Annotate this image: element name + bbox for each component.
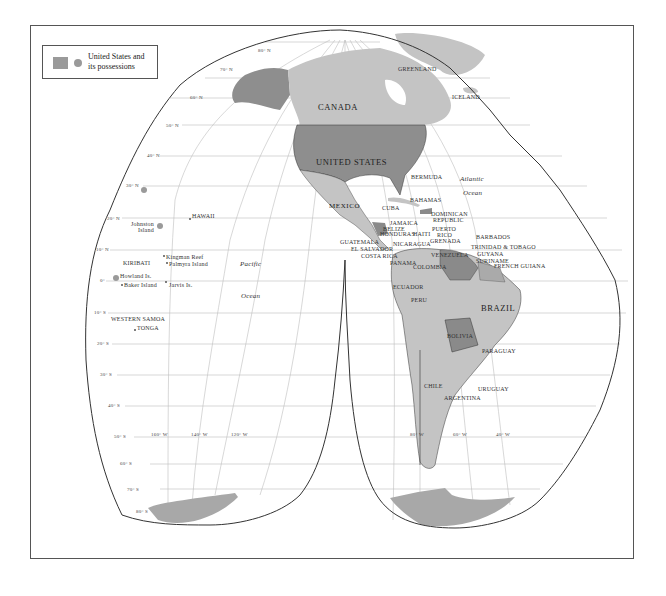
label-brazil: BRAZIL [481,303,515,313]
label-paraguay: PARAGUAY [482,348,516,354]
lat-label: 50° S [114,434,126,439]
label-costa-rica: COSTA RICA [361,253,398,259]
label-baker: Baker Island [124,282,157,288]
lon-label: 80° W [410,432,424,437]
label-ecuador: ECUADOR [393,284,423,290]
label-pacific-2: Ocean [241,292,260,300]
antarctica-west [148,493,238,523]
label-french-guiana: FRENCH GUIANA [494,263,545,269]
legend-text: United States and its possessions [88,52,144,72]
label-united-states: UNITED STATES [316,157,387,167]
label-iceland: ICELAND [452,94,480,100]
lat-label: 40° N [147,153,160,158]
lat-label: 60° S [120,461,132,466]
lat-label: 20° N [107,216,120,221]
label-uruguay: URUGUAY [478,386,509,392]
legend: United States and its possessions [42,45,158,79]
lat-label: 60° N [190,95,203,100]
label-argentina: ARGENTINA [444,395,481,401]
lat-label: 30° S [100,372,112,377]
label-bolivia: BOLIVIA [447,333,473,339]
alaska-shape [232,68,290,110]
lat-label: 70° N [220,67,233,72]
lat-label: 80° S [136,509,148,514]
map-canvas [0,0,666,596]
label-venezuela: VENEZUELA [431,252,468,258]
lon-label: 160° W [151,432,168,437]
label-jarvis: Jarvis Is. [169,282,192,288]
label-canada: CANADA [318,102,358,112]
label-pacific-1: Pacific [240,260,261,268]
lon-label: 140° W [191,432,208,437]
label-peru: PERU [411,297,427,303]
legend-swatch [53,57,68,69]
label-bahamas: BAHAMAS [410,197,441,203]
label-palmyra: Palmyra Island [169,261,208,267]
label-hawaii: HAWAII [192,213,215,219]
label-bermuda: BERMUDA [411,174,442,180]
label-guatemala: GUATEMALA [340,239,379,245]
label-trinidad: TRINIDAD & TOBAGO [471,244,536,250]
label-kingman-reef: Kingman Reef [166,254,204,260]
lon-label: 40° W [496,432,510,437]
lat-label: 80° N [258,48,271,53]
label-mexico: MEXICO [329,202,360,210]
label-atlantic-2: Ocean [463,189,482,197]
lat-label: 0° [100,278,105,283]
label-western-samoa: WESTERN SAMOA [111,316,165,322]
lon-label: 60° W [453,432,467,437]
legend-dot-icon [74,59,82,67]
label-dominican-2: REPUBLIC [433,217,464,223]
lat-label: 70° S [127,487,139,492]
label-nicaragua: NICARAGUA [393,241,431,247]
label-atlantic-1: Atlantic [460,175,484,183]
us-possessions [113,187,163,281]
lat-label: 30° N [126,183,139,188]
label-grenada: GRENADA [430,238,461,244]
label-el-salvador: EL SALVADOR [351,246,393,252]
lat-label: 10° N [96,247,109,252]
label-barbados: BARBADOS [476,234,510,240]
lat-label: 40° S [108,403,120,408]
label-kiribati: KIRIBATI [123,260,150,266]
label-howland: Howland Is. [120,273,152,279]
lat-label: 20° S [97,341,109,346]
label-guyana: GUYANA [477,251,504,257]
label-colombia: COLOMBIA [413,264,447,270]
label-tonga: TONGA [137,325,159,331]
lon-label: 120° W [231,432,248,437]
label-greenland: GREENLAND [398,66,436,72]
label-johnston-2: Island [138,227,154,233]
label-cuba: CUBA [382,205,399,211]
lat-label: 50° N [166,123,179,128]
lat-label: 10° S [94,310,106,315]
label-honduras: HONDURAS [380,231,415,237]
label-chile: CHILE [424,383,443,389]
label-haiti: HAITI [413,231,430,237]
